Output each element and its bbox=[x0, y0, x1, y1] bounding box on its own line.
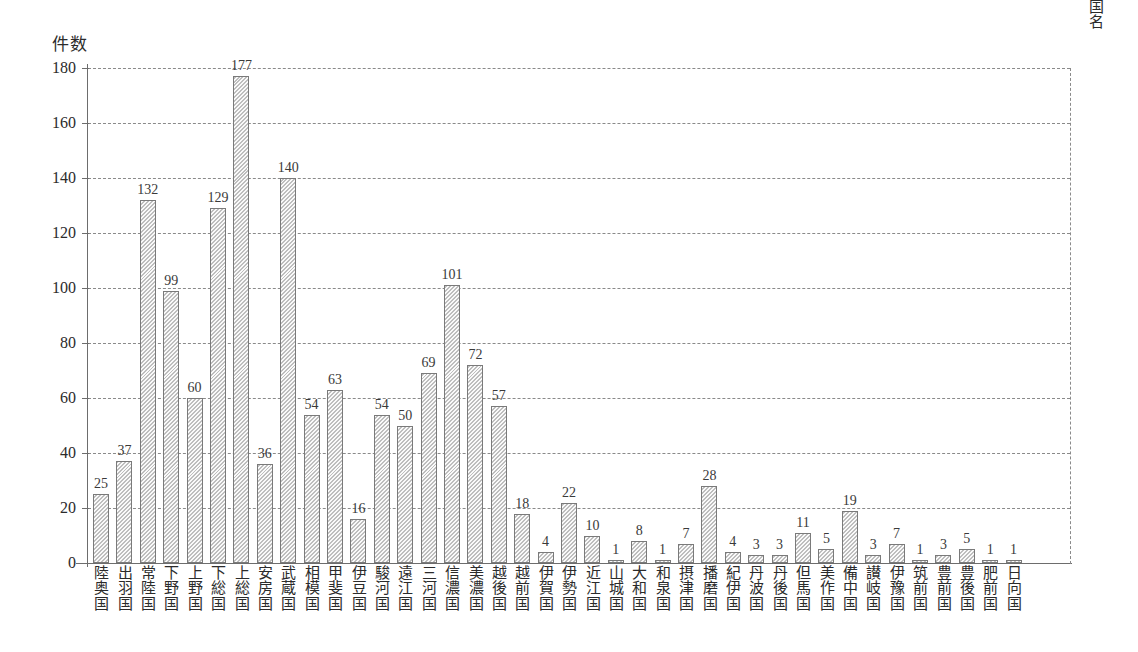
y-tick-label: 80 bbox=[32, 335, 76, 351]
x-axis-label: 日向国 bbox=[1003, 566, 1026, 612]
bar-group[interactable]: 1 bbox=[1003, 68, 1026, 563]
x-axis-label: 伊豆国 bbox=[347, 566, 370, 612]
y-tick-label: 0 bbox=[32, 555, 76, 571]
y-tick-label: 60 bbox=[32, 390, 76, 406]
bar-group[interactable]: 1 bbox=[979, 68, 1002, 563]
bar[interactable] bbox=[374, 415, 390, 564]
bar-group[interactable]: 3 bbox=[862, 68, 885, 563]
bar-group[interactable]: 69 bbox=[418, 68, 441, 563]
x-axis-label: 下野国 bbox=[160, 566, 183, 612]
bar[interactable] bbox=[444, 285, 460, 563]
bar-group[interactable]: 8 bbox=[628, 68, 651, 563]
bar-group[interactable]: 10 bbox=[581, 68, 604, 563]
x-axis-label: 三河国 bbox=[418, 566, 441, 612]
bar-group[interactable]: 18 bbox=[511, 68, 534, 563]
bar[interactable] bbox=[421, 373, 437, 563]
bar-group[interactable]: 72 bbox=[464, 68, 487, 563]
x-axis-label: 摂津国 bbox=[675, 566, 698, 612]
bar-group[interactable]: 50 bbox=[394, 68, 417, 563]
bar[interactable] bbox=[865, 555, 881, 563]
bar-group[interactable]: 36 bbox=[254, 68, 277, 563]
y-tick-label: 100 bbox=[32, 280, 76, 296]
bar[interactable] bbox=[725, 552, 741, 563]
y-tick-label: 180 bbox=[32, 60, 76, 76]
bar[interactable] bbox=[210, 208, 226, 563]
bar-group[interactable]: 60 bbox=[184, 68, 207, 563]
bar-group[interactable]: 54 bbox=[301, 68, 324, 563]
bar-group[interactable]: 132 bbox=[137, 68, 160, 563]
bar[interactable] bbox=[818, 549, 834, 563]
bar-group[interactable]: 3 bbox=[932, 68, 955, 563]
bar-group[interactable]: 99 bbox=[160, 68, 183, 563]
x-axis-label: 駿河国 bbox=[371, 566, 394, 612]
bar-group[interactable]: 129 bbox=[207, 68, 230, 563]
x-axis-label: 近江国 bbox=[581, 566, 604, 612]
bar[interactable] bbox=[327, 390, 343, 563]
x-axis-label: 陸奥国 bbox=[90, 566, 113, 612]
bar[interactable] bbox=[655, 560, 671, 563]
bar-group[interactable]: 1 bbox=[652, 68, 675, 563]
bar[interactable] bbox=[935, 555, 951, 563]
x-axis-label: 讃岐国 bbox=[862, 566, 885, 612]
bar-group[interactable]: 4 bbox=[722, 68, 745, 563]
bar-group[interactable]: 101 bbox=[441, 68, 464, 563]
bar-group[interactable]: 7 bbox=[886, 68, 909, 563]
bar-group[interactable]: 3 bbox=[769, 68, 792, 563]
x-axis-line bbox=[76, 563, 1072, 564]
bar[interactable] bbox=[257, 464, 273, 563]
bar[interactable] bbox=[187, 398, 203, 563]
bar[interactable] bbox=[1006, 560, 1022, 563]
bar[interactable] bbox=[678, 544, 694, 563]
bar-group[interactable]: 11 bbox=[792, 68, 815, 563]
bar[interactable] bbox=[233, 76, 249, 563]
bar[interactable] bbox=[538, 552, 554, 563]
bar-group[interactable]: 7 bbox=[675, 68, 698, 563]
x-axis-label: 伊勢国 bbox=[558, 566, 581, 612]
bar-group[interactable]: 28 bbox=[698, 68, 721, 563]
x-axis-label: 越後国 bbox=[488, 566, 511, 612]
bar[interactable] bbox=[608, 560, 624, 563]
bar[interactable] bbox=[912, 560, 928, 563]
bar[interactable] bbox=[561, 503, 577, 564]
bar-group[interactable]: 57 bbox=[488, 68, 511, 563]
bar[interactable] bbox=[140, 200, 156, 563]
plot-right-border bbox=[1070, 68, 1071, 564]
bar-group[interactable]: 5 bbox=[815, 68, 838, 563]
bar[interactable] bbox=[280, 178, 296, 563]
bar[interactable] bbox=[163, 291, 179, 563]
bar-group[interactable]: 140 bbox=[277, 68, 300, 563]
y-tick-label: 20 bbox=[32, 500, 76, 516]
bar[interactable] bbox=[93, 494, 109, 563]
bar[interactable] bbox=[701, 486, 717, 563]
bar[interactable] bbox=[304, 415, 320, 564]
bar-group[interactable]: 16 bbox=[347, 68, 370, 563]
bar-group[interactable]: 22 bbox=[558, 68, 581, 563]
bar[interactable] bbox=[748, 555, 764, 563]
bars-container: 2537132996012917736140546316545069101725… bbox=[88, 68, 1070, 563]
bar-group[interactable]: 1 bbox=[909, 68, 932, 563]
x-axis-label: 伊豫国 bbox=[886, 566, 909, 612]
x-axis-label: 丹後国 bbox=[769, 566, 792, 612]
bar[interactable] bbox=[350, 519, 366, 563]
x-axis-label: 安房国 bbox=[254, 566, 277, 612]
bar-group[interactable]: 19 bbox=[839, 68, 862, 563]
y-tick-label: 140 bbox=[32, 170, 76, 186]
bar-group[interactable]: 177 bbox=[230, 68, 253, 563]
x-axis-label: 紀伊国 bbox=[722, 566, 745, 612]
bar-group[interactable]: 54 bbox=[371, 68, 394, 563]
y-tick-label: 160 bbox=[32, 115, 76, 131]
x-axis-label: 上野国 bbox=[184, 566, 207, 612]
x-axis-label: 美作国 bbox=[815, 566, 838, 612]
bar[interactable] bbox=[397, 426, 413, 564]
bar-group[interactable]: 1 bbox=[605, 68, 628, 563]
x-axis-label: 豊前国 bbox=[932, 566, 955, 612]
bar[interactable] bbox=[982, 560, 998, 563]
bar-group[interactable]: 5 bbox=[956, 68, 979, 563]
bar[interactable] bbox=[491, 406, 507, 563]
bar-group[interactable]: 25 bbox=[90, 68, 113, 563]
bar-group[interactable]: 63 bbox=[324, 68, 347, 563]
bar-group[interactable]: 3 bbox=[745, 68, 768, 563]
bar[interactable] bbox=[772, 555, 788, 563]
bar[interactable] bbox=[116, 461, 132, 563]
bar-group[interactable]: 37 bbox=[113, 68, 136, 563]
